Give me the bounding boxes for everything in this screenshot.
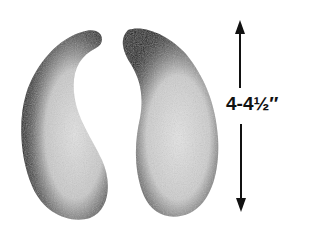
dimension-arrow	[235, 20, 246, 212]
crescent-shapes	[0, 0, 320, 234]
arrow-up-head	[235, 20, 245, 34]
left-crescent-piece	[21, 30, 108, 219]
arrow-down-head	[236, 198, 246, 212]
illustration-canvas: 4-4½″	[0, 0, 320, 234]
dimension-label: 4-4½″	[226, 93, 278, 115]
right-crescent-piece	[123, 28, 219, 216]
